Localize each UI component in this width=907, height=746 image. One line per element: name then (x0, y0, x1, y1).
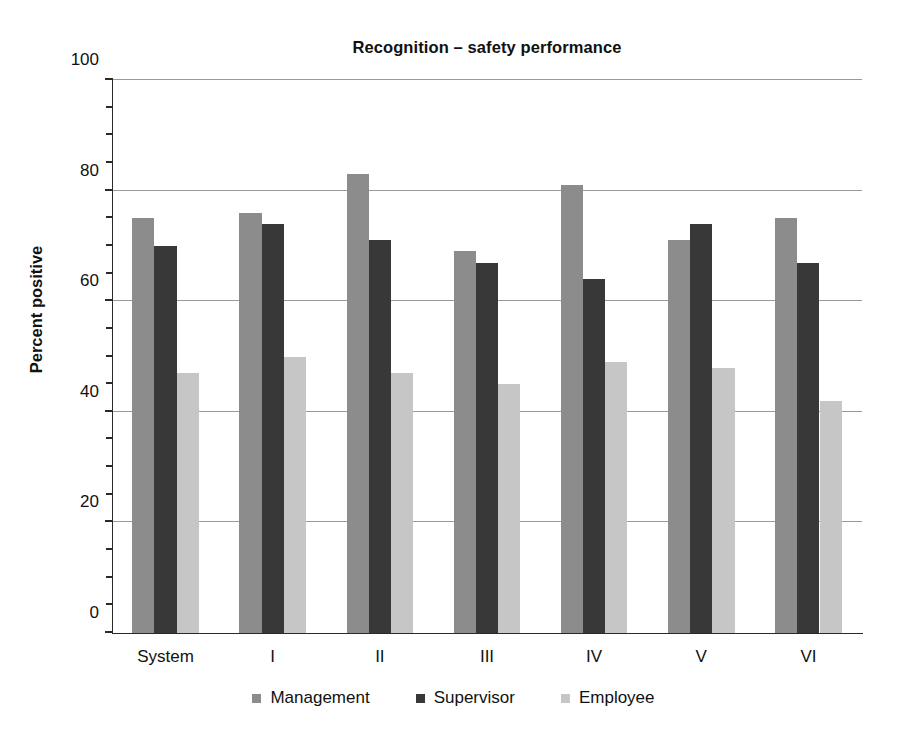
bar-group-vi: VI (755, 80, 862, 633)
bar-supervisor-iv (583, 279, 605, 633)
bar-group-iii: III (433, 80, 540, 633)
bar-supervisor-ii (369, 240, 391, 633)
bar-management-i (239, 213, 261, 633)
legend-swatch-icon-management (252, 694, 261, 703)
legend-swatch-icon-employee (561, 694, 570, 703)
x-axis-line (112, 633, 863, 634)
bar-employee-v (712, 368, 734, 633)
plot-area: 020406080100 SystemIIIIIIIVVVI (112, 80, 862, 633)
legend-item-employee[interactable]: Employee (561, 688, 655, 708)
x-tick-label-system: System (112, 647, 219, 667)
bar-supervisor-i (262, 224, 284, 633)
x-tick-label-ii: II (326, 647, 433, 667)
bar-employee-i (284, 357, 306, 634)
y-axis-title: Percent positive (27, 210, 46, 410)
bar-management-vi (775, 218, 797, 633)
bar-group-i: I (219, 80, 326, 633)
y-tick-label-100: 100 (71, 50, 99, 70)
x-tick-label-i: I (219, 647, 326, 667)
chart-legend: ManagementSupervisorEmployee (0, 688, 907, 708)
bar-group-iv: IV (541, 80, 648, 633)
legend-label-employee: Employee (579, 688, 655, 708)
y-tick-label-60: 60 (80, 271, 99, 291)
bar-employee-ii (391, 373, 413, 633)
legend-item-supervisor[interactable]: Supervisor (416, 688, 515, 708)
bar-employee-iv (605, 362, 627, 633)
bar-management-v (668, 240, 690, 633)
bar-supervisor-v (690, 224, 712, 633)
bar-employee-iii (498, 384, 520, 633)
bar-employee-vi (820, 401, 842, 633)
bar-group-ii: II (326, 80, 433, 633)
chart-title: Recognition – safety performance (112, 38, 862, 57)
x-tick-label-iv: IV (541, 647, 648, 667)
legend-item-management[interactable]: Management (252, 688, 369, 708)
bar-management-iv (561, 185, 583, 633)
bar-employee-system (177, 373, 199, 633)
bar-group-v: V (648, 80, 755, 633)
x-tick-label-vi: VI (755, 647, 862, 667)
y-tick-label-20: 20 (80, 492, 99, 512)
y-tick-label-80: 80 (80, 161, 99, 181)
y-tick-label-0: 0 (90, 603, 99, 623)
bar-group-system: System (112, 80, 219, 633)
x-tick-label-iii: III (433, 647, 540, 667)
legend-label-supervisor: Supervisor (434, 688, 515, 708)
legend-swatch-icon-supervisor (416, 694, 425, 703)
bar-management-system (132, 218, 154, 633)
y-tick-label-40: 40 (80, 382, 99, 402)
bar-supervisor-iii (476, 263, 498, 634)
x-tick-label-v: V (648, 647, 755, 667)
bar-supervisor-vi (797, 263, 819, 634)
chart-figure: Recognition – safety performance Percent… (0, 0, 907, 746)
bar-management-iii (454, 251, 476, 633)
bar-supervisor-system (154, 246, 176, 633)
bar-management-ii (347, 174, 369, 633)
legend-label-management: Management (270, 688, 369, 708)
